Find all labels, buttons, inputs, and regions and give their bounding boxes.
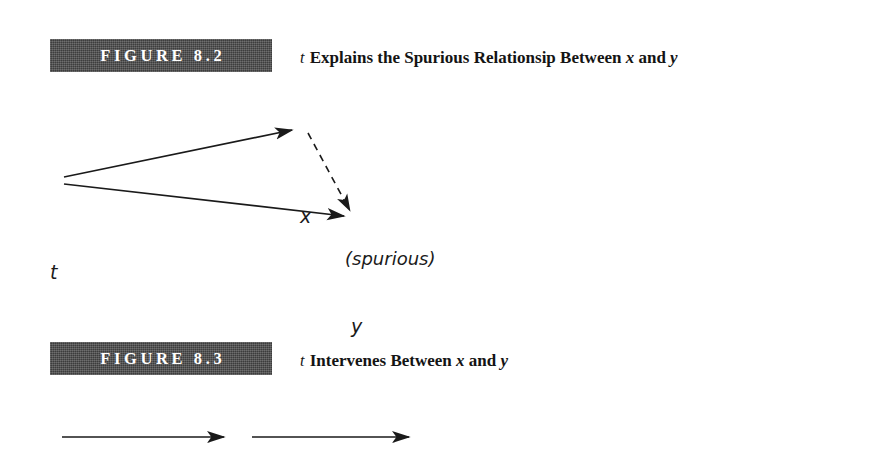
figure-8-2-diagram: t x y (spurious) <box>0 95 877 255</box>
caption-text-between: and <box>634 48 670 67</box>
caption-var-x: x <box>626 48 635 67</box>
node-label-t: t <box>50 263 57 282</box>
caption-var-y: y <box>500 351 508 370</box>
figure-8-3-banner-label: FIGURE 8.3 <box>97 349 226 369</box>
figure-8-2-banner: FIGURE 8.2 <box>50 39 272 72</box>
spurious-edge-annotation: (spurious) <box>345 250 435 268</box>
figure-8-3-caption: t Intervenes Between x and y <box>300 351 508 371</box>
node-label-y: y <box>351 317 362 336</box>
caption-var-x: x <box>456 351 465 370</box>
caption-var-y: y <box>670 48 678 67</box>
figure-8-2-banner-label: FIGURE 8.2 <box>97 46 226 66</box>
figure-8-3-diagram: x t y <box>0 410 877 470</box>
figure-8-3-banner: FIGURE 8.3 <box>50 342 272 375</box>
node-label-x: x <box>300 207 311 226</box>
caption-text-before: Explains the Spurious Relationsip Betwee… <box>305 48 625 67</box>
figure-8-2-caption: t Explains the Spurious Relationsip Betw… <box>300 48 678 68</box>
edge-t-to-x <box>64 130 292 177</box>
caption-text-between: and <box>465 351 501 370</box>
edge-x-to-y-spurious <box>308 133 349 209</box>
caption-text-before: Intervenes Between <box>305 351 456 370</box>
